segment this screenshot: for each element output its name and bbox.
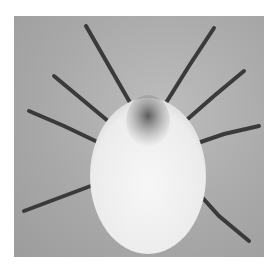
mite-photograph	[14, 16, 264, 257]
mite-head	[126, 95, 170, 147]
caption	[0, 258, 278, 274]
mite-illustration	[14, 16, 264, 257]
